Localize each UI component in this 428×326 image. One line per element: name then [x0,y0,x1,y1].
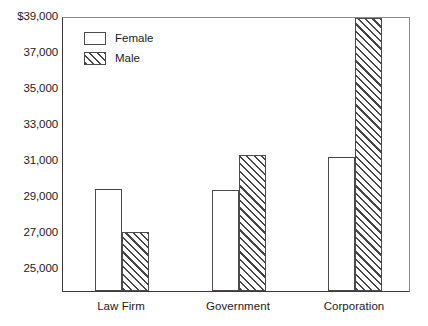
bar-corporation-female [328,157,355,291]
legend-label-male: Male [115,52,140,64]
legend-swatch-female [84,32,106,45]
legend-swatch-male [84,52,106,65]
y-axis-label: 31,000 [0,155,58,167]
y-axis-label: $39,000 [0,11,58,23]
y-axis-label: 35,000 [0,83,58,95]
bar-law-firm-male [122,232,149,291]
legend-label-female: Female [115,32,153,44]
bar-corporation-male [355,18,382,291]
legend: FemaleMale [84,28,153,68]
bar-government-male [239,155,266,291]
category-label-law-firm: Law Firm [59,300,183,312]
y-axis-label: 27,000 [0,227,58,239]
y-axis-label: 25,000 [0,263,58,275]
legend-item-female: Female [84,28,153,48]
bar-chart: $39,00037,00035,00033,00031,00029,00027,… [0,0,428,326]
y-axis-label: 37,000 [0,47,58,59]
category-label-government: Government [176,300,300,312]
legend-item-male: Male [84,48,153,68]
category-label-corporation: Corporation [292,300,416,312]
bar-law-firm-female [95,189,122,291]
y-axis-label: 29,000 [0,191,58,203]
bar-government-female [212,190,239,291]
y-axis-label: 33,000 [0,119,58,131]
